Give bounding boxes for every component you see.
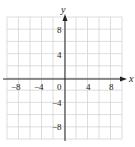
x-tick-label: 0 — [57, 82, 62, 92]
y-tick-label: −4 — [52, 98, 62, 108]
y-axis-arrow-icon — [63, 14, 68, 21]
x-tick-label: −8 — [11, 82, 21, 92]
x-tick-label: −4 — [34, 82, 44, 92]
y-axis-label: y — [60, 4, 66, 15]
y-tick-label: 8 — [57, 25, 62, 35]
x-tick-label: 8 — [109, 82, 114, 92]
coordinate-grid: x y −8 −4 0 4 8 8 4 −4 −8 — [0, 0, 135, 147]
x-tick-label: 4 — [86, 82, 91, 92]
y-tick-label: 4 — [57, 50, 62, 60]
y-tick-label: −8 — [52, 122, 62, 132]
x-axis-label: x — [128, 73, 134, 84]
axes: x y — [3, 4, 134, 141]
x-axis-arrow-icon — [120, 77, 127, 82]
